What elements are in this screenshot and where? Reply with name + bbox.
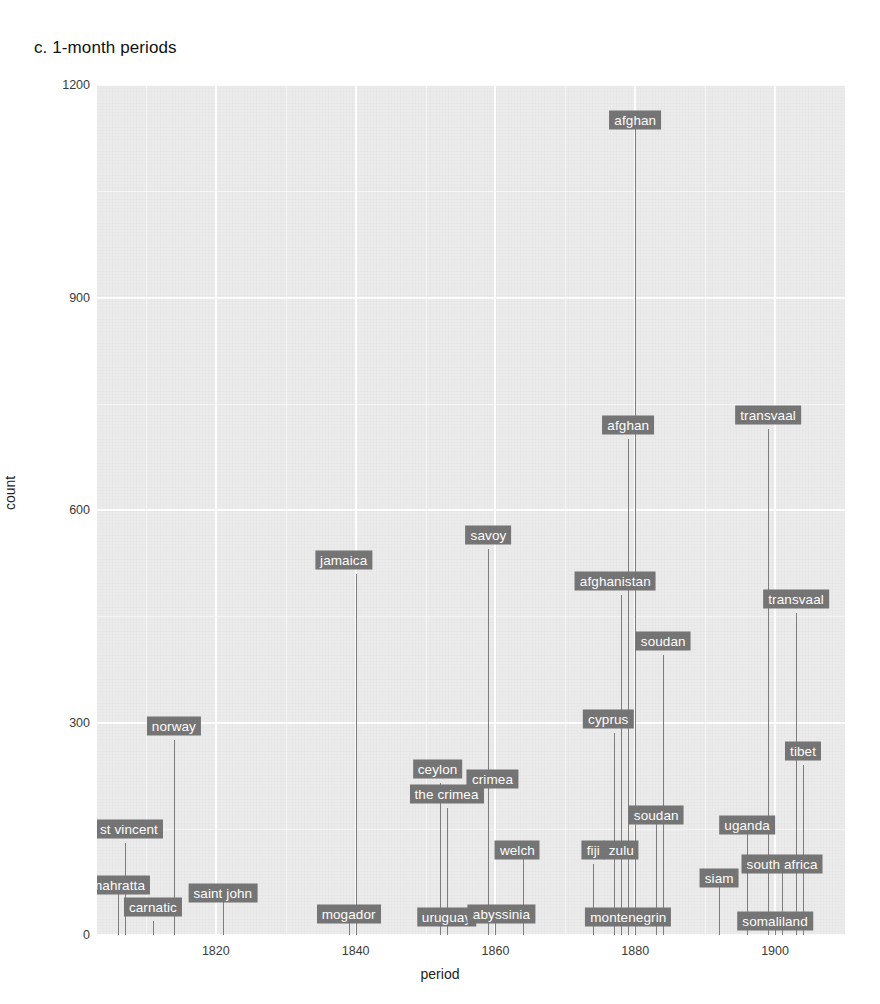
point-label: mogador	[317, 904, 381, 923]
point-label: st vincent	[97, 819, 163, 838]
stem-line	[153, 921, 154, 935]
gridline-horizontal-minor	[97, 191, 845, 192]
point-label: mahratta	[97, 876, 150, 895]
y-tick-label: 900	[40, 291, 90, 305]
x-axis-label: period	[0, 966, 880, 982]
point-label: zulu	[604, 841, 639, 860]
point-label: ceylon	[413, 759, 463, 778]
point-label: welch	[495, 841, 540, 860]
point-label: transvaal	[735, 405, 801, 424]
point-label: uganda	[719, 816, 775, 835]
gridline-horizontal-minor	[97, 404, 845, 405]
point-label: afghan	[602, 416, 654, 435]
stem-line	[628, 439, 629, 935]
point-label: montenegrin	[585, 908, 671, 927]
point-label: fiji	[582, 841, 605, 860]
gridline-vertical-major	[494, 85, 496, 935]
point-label: cyprus	[583, 710, 633, 729]
y-tick-label: 300	[40, 716, 90, 730]
point-label: soudan	[629, 805, 684, 824]
point-label: somaliland	[737, 911, 813, 930]
point-label: afghan	[609, 111, 661, 130]
point-label: siam	[700, 869, 739, 888]
stem-line	[356, 574, 357, 935]
point-label: south africa	[742, 855, 823, 874]
gridline-horizontal-major	[97, 722, 845, 724]
gridline-vertical-minor	[426, 85, 427, 935]
point-label: soudan	[636, 632, 691, 651]
point-label: crimea	[467, 770, 518, 789]
x-tick-label: 1900	[761, 944, 789, 958]
gridline-horizontal-major	[97, 85, 845, 86]
gridline-vertical-minor	[146, 85, 147, 935]
gridline-vertical-major	[215, 85, 217, 935]
stem-line	[803, 765, 804, 935]
gridline-horizontal-major	[97, 934, 845, 935]
point-label: carnatic	[124, 897, 182, 916]
point-label: jamaica	[315, 550, 372, 569]
gridline-horizontal-major	[97, 297, 845, 299]
point-label: saint john	[188, 883, 257, 902]
x-tick-label: 1860	[482, 944, 510, 958]
stem-line	[614, 733, 615, 935]
stem-line	[663, 655, 664, 935]
figure-title: c. 1-month periods	[34, 38, 177, 58]
plot-panel: norwayst vincentmahrattasaint johncarnat…	[97, 85, 845, 935]
point-label: transvaal	[763, 589, 829, 608]
x-tick-label: 1880	[621, 944, 649, 958]
gridline-vertical-minor	[286, 85, 287, 935]
gridline-vertical-major	[774, 85, 776, 935]
x-tick-label: 1820	[202, 944, 230, 958]
gridline-vertical-minor	[705, 85, 706, 935]
point-label: savoy	[466, 525, 512, 544]
gridline-horizontal-minor	[97, 616, 845, 617]
gridline-vertical-minor	[565, 85, 566, 935]
gridline-horizontal-major	[97, 509, 845, 511]
point-label: afghanistan	[575, 572, 656, 591]
x-tick-label: 1840	[342, 944, 370, 958]
point-label: abyssinia	[468, 904, 535, 923]
point-label: norway	[147, 717, 201, 736]
y-tick-label: 0	[40, 928, 90, 942]
y-tick-label: 1200	[40, 78, 90, 92]
y-axis-label: count	[2, 476, 18, 510]
y-tick-label: 600	[40, 503, 90, 517]
point-label: tibet	[785, 742, 821, 761]
stem-line	[796, 613, 797, 935]
